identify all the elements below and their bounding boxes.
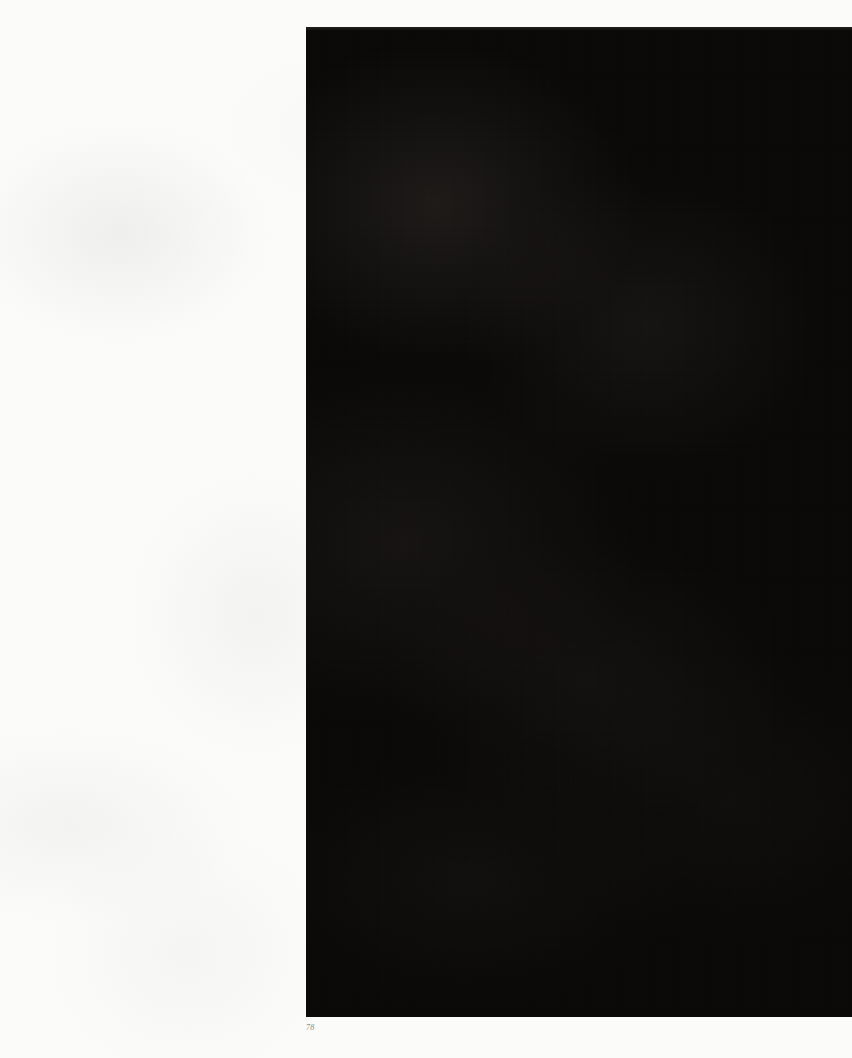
page-number-folio: 78 xyxy=(306,1024,315,1032)
image-plate xyxy=(306,27,852,1017)
scanned-page-sheet: 78 xyxy=(0,0,852,1058)
left-page-margin xyxy=(0,0,306,1058)
plate-top-edge-highlight xyxy=(306,27,852,31)
plate-compression-texture xyxy=(306,27,852,1017)
